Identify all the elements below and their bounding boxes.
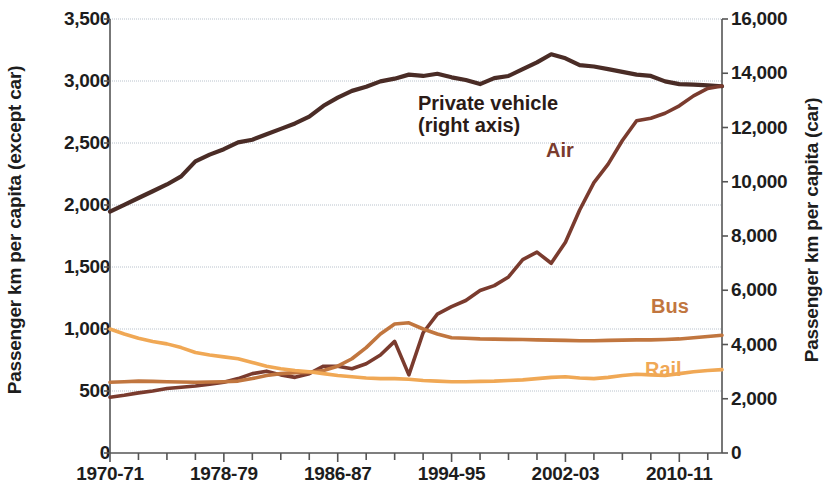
- series-lines: [110, 54, 722, 397]
- series-label-private-vehicle: Private vehicle (right axis): [418, 92, 558, 137]
- chart-container: Passenger km per capita (except car) Pas…: [0, 0, 827, 494]
- series-label-rail: Rail: [645, 358, 682, 380]
- series-label-air: Air: [546, 139, 574, 161]
- axis-lines: [110, 19, 722, 453]
- axis-tickmarks: [104, 19, 728, 462]
- plot-area: [0, 0, 827, 494]
- series-label-bus: Bus: [651, 295, 689, 317]
- private-vehicle-label-line1: Private vehicle: [418, 92, 558, 114]
- private-vehicle-label-line2: (right axis): [418, 114, 558, 136]
